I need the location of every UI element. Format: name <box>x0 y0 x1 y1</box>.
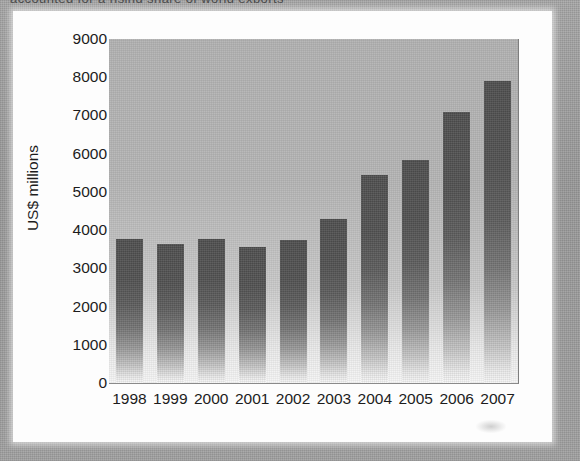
bar <box>484 81 511 383</box>
bar <box>116 239 143 383</box>
y-axis-title: US$ millions <box>24 118 42 258</box>
y-tick-label: 8000 <box>73 69 107 85</box>
x-tick-label: 1999 <box>149 389 191 409</box>
x-axis-tick-labels: 1998199920002001200220032004200520062007 <box>109 389 529 411</box>
page-bleed-through-text: accounted for a rising share of world ex… <box>10 0 410 3</box>
bar <box>239 247 266 383</box>
scan-smudge-artifact <box>476 420 506 433</box>
y-tick-label: 3000 <box>73 260 107 276</box>
bar <box>320 219 347 383</box>
x-tick-label: 2001 <box>231 389 273 409</box>
y-tick-label: 4000 <box>73 222 107 238</box>
y-tick-label: 5000 <box>73 184 107 200</box>
bar <box>402 160 429 383</box>
y-tick-label: 1000 <box>73 337 107 353</box>
plot-area <box>109 39 519 384</box>
y-tick-label: 0 <box>98 375 107 391</box>
y-axis-tick-labels: 9000800070006000500040003000200010000 <box>49 29 107 385</box>
x-tick-label: 2006 <box>436 389 478 409</box>
bar <box>280 240 307 383</box>
bar-chart: US$ millions 900080007000600050004000300… <box>13 11 552 442</box>
x-tick-label: 2004 <box>354 389 396 409</box>
x-tick-label: 2007 <box>477 389 519 409</box>
bar <box>361 175 388 383</box>
y-tick-label: 7000 <box>73 107 107 123</box>
x-tick-label: 2000 <box>190 389 232 409</box>
x-tick-label: 1998 <box>108 389 150 409</box>
y-tick-label: 6000 <box>73 146 107 162</box>
bar <box>443 112 470 383</box>
y-tick-label: 2000 <box>73 299 107 315</box>
figure-card: US$ millions 900080007000600050004000300… <box>13 11 552 442</box>
x-tick-label: 2003 <box>313 389 355 409</box>
bar <box>157 244 184 384</box>
bar <box>198 239 225 383</box>
x-tick-label: 2002 <box>272 389 314 409</box>
x-tick-label: 2005 <box>395 389 437 409</box>
y-tick-label: 9000 <box>73 31 107 47</box>
